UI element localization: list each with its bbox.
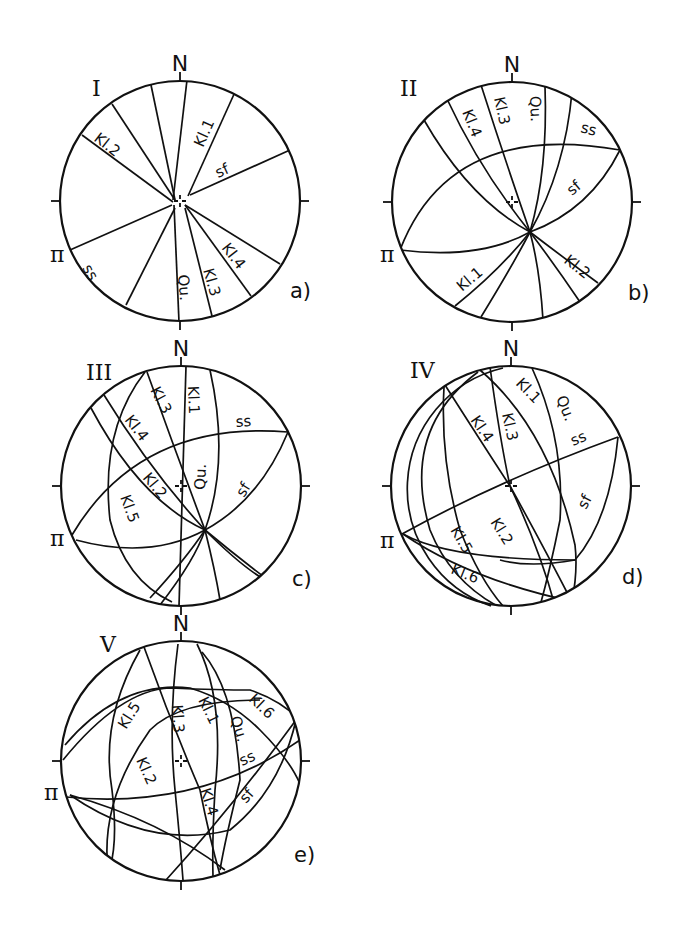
- plane-label: Kl.5: [114, 699, 144, 733]
- plane-kl2: [76, 530, 205, 548]
- plane-label: Kl.6: [245, 690, 278, 723]
- plane-label: Qu.: [191, 463, 210, 490]
- diagram-numeral: III: [86, 360, 112, 385]
- plane-label: Kl.2: [487, 515, 517, 549]
- diagram-numeral: IV: [410, 358, 436, 383]
- center-cross-icon: [506, 196, 518, 208]
- plane-label: Kl.2: [91, 129, 124, 161]
- plane-label: Kl.2: [139, 469, 171, 502]
- plane-unlabeled-4: [530, 232, 543, 320]
- plane-label: ss: [568, 427, 589, 450]
- plane-sf: [70, 720, 296, 835]
- diagram-numeral: II: [400, 76, 417, 101]
- plane-pi-girdle: [400, 232, 530, 253]
- north-label: N: [503, 336, 519, 361]
- plane-label: ss: [579, 118, 599, 139]
- plane-unlabeled-2: [424, 120, 530, 232]
- plane-label: Kl.1: [184, 386, 203, 415]
- plane-label: Kl.5: [116, 492, 143, 525]
- pi-label: π: [380, 528, 394, 553]
- panel-label: a): [290, 279, 311, 303]
- plane-label: Kl.2: [561, 251, 594, 283]
- plane-label: Qu.: [552, 393, 578, 424]
- pi-label: π: [44, 780, 58, 805]
- planes: [402, 367, 618, 606]
- panel-label: c): [292, 567, 312, 591]
- plane-label: Kl.2: [132, 754, 160, 787]
- stereonet-e: NVπe)Kl.5Kl.3Kl.1Qu.Kl.6sssfKl.2Kl.4: [44, 611, 315, 890]
- diagram-numeral: V: [99, 632, 117, 657]
- plane-kl5: [109, 650, 140, 868]
- plane-label: Kl.3: [168, 704, 188, 734]
- plane-kl4: [447, 99, 530, 232]
- plane-unlabeled-2: [166, 720, 296, 880]
- plane-label: Kl.4: [218, 239, 250, 272]
- plane-label: sf: [236, 784, 259, 806]
- stereonet-diagrams: NIπa)Kl.1Kl.2sfssQu.Kl.3Kl.4NIIπb)Kl.4Kl…: [44, 51, 650, 890]
- planes: [72, 366, 288, 606]
- plane-label: Kl.1: [190, 116, 218, 149]
- plane-label: Kl.5: [447, 523, 477, 557]
- plane-label: Kl.1: [453, 263, 486, 295]
- primitive-circle: [61, 366, 301, 606]
- plane-unlabeled-2: [150, 530, 205, 598]
- plane-label: sf: [212, 160, 232, 182]
- plane-label: sf: [574, 491, 596, 512]
- plane-label: Qu.: [174, 274, 194, 302]
- plane-kl2: [510, 486, 555, 606]
- plane-label: sf: [563, 176, 585, 199]
- panel-label: d): [622, 565, 644, 589]
- north-label: N: [173, 611, 189, 636]
- stereonet-c: NIIIπc)Kl.1Kl.3Kl.4ssQu.sfKl.2Kl.5: [50, 336, 312, 615]
- center-cross-icon: [175, 480, 187, 492]
- plane-unlabeled-3: [481, 232, 530, 317]
- panel-label: b): [628, 281, 650, 305]
- pi-label: π: [50, 242, 64, 267]
- plane-label: Kl.3: [199, 266, 224, 298]
- stereonet-d: NIVπd)Kl.1Qu.Kl.3Kl.4sssfKl.2Kl.5Kl.6: [380, 336, 644, 615]
- plane-label: Kl.6: [449, 560, 482, 587]
- north-label: N: [504, 52, 520, 77]
- plane-qu: [174, 205, 179, 322]
- plane-label: Kl.4: [196, 786, 222, 819]
- pi-label: π: [50, 526, 64, 551]
- plane-label: Kl.4: [458, 107, 485, 140]
- north-label: N: [172, 51, 188, 76]
- north-label: N: [173, 336, 189, 361]
- plane-label: sf: [232, 479, 255, 500]
- center-cross-icon: [174, 195, 186, 207]
- plane-kl5: [403, 534, 575, 560]
- plane-kl3: [172, 644, 183, 880]
- plane-unlabeled-1: [173, 80, 187, 200]
- stereonet-figure: NIπa)Kl.1Kl.2sfssQu.Kl.3Kl.4NIIπb)Kl.4Kl…: [0, 0, 683, 930]
- pi-label: π: [380, 242, 394, 267]
- stereonet-b: NIIπb)Kl.4Kl.3Qu.sssfKl.1Kl.2: [380, 52, 650, 331]
- diagram-numeral: I: [92, 76, 101, 101]
- plane-qu: [202, 652, 240, 870]
- plane-label: Kl.4: [467, 412, 498, 446]
- plane-label: Qu.: [526, 96, 545, 123]
- plane-ss: [72, 431, 288, 535]
- plane-label: ss: [79, 261, 102, 284]
- plane-label: Kl.1: [512, 374, 545, 407]
- panel-label: e): [294, 843, 315, 867]
- plane-label: Kl.4: [121, 411, 153, 444]
- stereonet-a: NIπa)Kl.1Kl.2sfssQu.Kl.3Kl.4: [50, 51, 311, 330]
- planes: [63, 644, 300, 880]
- plane-label: Kl.3: [146, 383, 175, 416]
- plane-label: ss: [235, 412, 252, 431]
